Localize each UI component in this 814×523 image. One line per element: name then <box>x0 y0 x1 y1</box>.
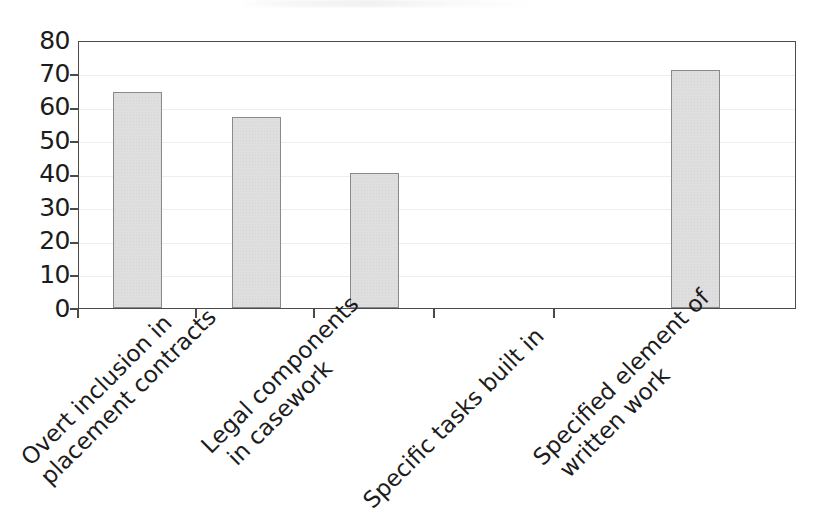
x-tick-mark-4 <box>553 309 555 318</box>
y-tick-label-60: 60 <box>26 94 70 119</box>
x-category-label-3: Specific tasks built in <box>358 323 549 514</box>
bar-chart-figure: 80 70 60 50 40 30 20 10 0 <box>0 0 814 523</box>
y-tick-label-20: 20 <box>26 228 70 253</box>
y-tick-label-70: 70 <box>26 61 70 86</box>
x-tick-mark-0 <box>77 309 79 318</box>
x-category-label-2-line-1: Legal components <box>196 291 364 459</box>
y-tick-label-30: 30 <box>26 195 70 220</box>
x-tick-mark-3 <box>433 309 435 318</box>
bar-legal-components-in-casework[interactable] <box>232 117 281 308</box>
y-tick-label-80: 80 <box>26 28 70 53</box>
bar-texture <box>672 71 719 307</box>
bar-texture <box>114 93 161 307</box>
bar-texture <box>351 174 398 307</box>
x-category-label-3-line-1: Specific tasks built in <box>358 323 549 514</box>
y-tick-label-40: 40 <box>26 161 70 186</box>
x-category-label-2: Legal components in casework <box>196 291 383 478</box>
y-tick-label-10: 10 <box>26 262 70 287</box>
bar-specific-tasks-built-in[interactable] <box>350 173 399 308</box>
x-category-label-4-line-1: Specified element of <box>528 284 715 471</box>
x-category-label-1-line-2: placement contracts <box>35 304 222 491</box>
y-tick-label-50: 50 <box>26 128 70 153</box>
bar-specified-element-of-written-work[interactable] <box>671 70 720 308</box>
x-tick-mark-2 <box>313 309 315 318</box>
plot-area <box>78 41 796 309</box>
x-category-label-4-line-2: written work <box>547 303 734 490</box>
scan-artifact <box>235 0 535 7</box>
x-category-label-4: Specified element of written work <box>528 284 734 490</box>
bar-overt-inclusion-in-placement-contracts[interactable] <box>113 92 162 308</box>
bar-texture <box>233 118 280 307</box>
y-tick-label-0: 0 <box>26 296 70 321</box>
